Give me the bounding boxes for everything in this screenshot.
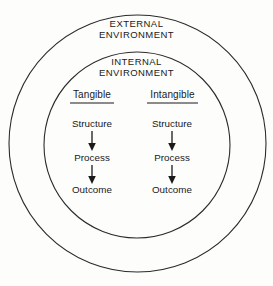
intangible-process-node: Process	[132, 152, 212, 164]
diagram-canvas	[0, 0, 273, 286]
external-environment-line-1: EXTERNAL	[0, 18, 273, 29]
tangible-structure-to-process-arrow-head	[88, 143, 96, 151]
internal-environment-line-1: INTERNAL	[0, 56, 273, 67]
external-environment-line-2: ENVIRONMENT	[0, 29, 273, 40]
tangible-outcome-node: Outcome	[52, 184, 132, 196]
tangible-process-to-outcome-arrow-head	[88, 176, 96, 184]
intangible-outcome-node: Outcome	[132, 184, 212, 196]
tangible-column-heading: Tangible	[52, 89, 132, 101]
external-environment-ring	[9, 15, 266, 272]
intangible-structure-node: Structure	[132, 118, 212, 130]
internal-environment-label: INTERNAL ENVIRONMENT	[0, 56, 273, 78]
internal-environment-ring	[44, 52, 230, 238]
tangible-structure-node: Structure	[52, 118, 132, 130]
intangible-structure-to-process-arrow-head	[168, 143, 176, 151]
environment-model-diagram: EXTERNAL ENVIRONMENT INTERNAL ENVIRONMEN…	[0, 0, 273, 286]
intangible-column-heading: Intangible	[130, 89, 215, 101]
intangible-process-to-outcome-arrow-head	[168, 176, 176, 184]
internal-environment-line-2: ENVIRONMENT	[0, 67, 273, 78]
tangible-process-node: Process	[52, 152, 132, 164]
external-environment-label: EXTERNAL ENVIRONMENT	[0, 18, 273, 40]
